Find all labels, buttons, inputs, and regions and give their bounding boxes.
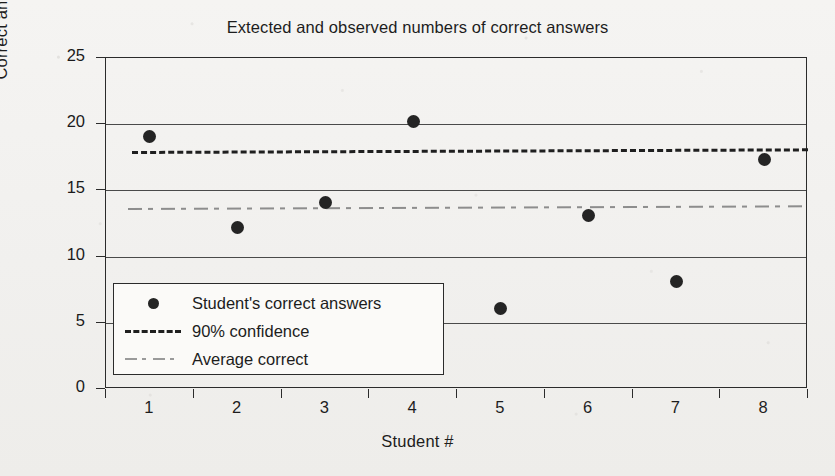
x-axis-tick-mark [368, 389, 369, 398]
gridline [106, 190, 806, 191]
data-point [407, 115, 420, 128]
confidence-interval-line [132, 148, 808, 154]
gridline [106, 124, 806, 125]
y-axis-tick-mark [96, 388, 105, 389]
data-point [494, 302, 507, 315]
dot-marker-key-icon [114, 298, 192, 309]
x-axis-tick-label: 2 [217, 398, 257, 417]
legend-label: 90% confidence [192, 322, 309, 341]
y-axis-title: Correct answers [0, 0, 11, 148]
x-axis-tick-mark [281, 389, 282, 398]
x-axis-tick-label: 5 [480, 398, 520, 417]
y-axis-tick-label: 5 [39, 311, 85, 330]
dash-dot-line-key-icon [114, 358, 192, 360]
x-axis-tick-mark [456, 389, 457, 398]
x-axis-tick-label: 6 [568, 398, 608, 417]
data-point [758, 153, 771, 166]
x-axis-tick-mark [632, 389, 633, 398]
x-axis-tick-label: 8 [743, 398, 783, 417]
data-point [143, 130, 156, 143]
x-axis-tick-label: 3 [304, 398, 344, 417]
y-axis-tick-label: 15 [39, 178, 85, 197]
y-axis-tick-mark [96, 123, 105, 124]
legend-item-students-correct-answers: Student's correct answers [114, 289, 443, 317]
x-axis-tick-label: 1 [129, 398, 169, 417]
y-axis-tick-mark [96, 322, 105, 323]
y-axis-tick-label: 25 [39, 46, 85, 65]
y-axis-tick-label: 20 [39, 112, 85, 131]
x-axis-tick-mark [193, 389, 194, 398]
x-axis-tick-mark [719, 389, 720, 398]
gridline [106, 257, 806, 258]
y-axis-tick-mark [96, 189, 105, 190]
chart-legend: Student's correct answers 90% confidence… [113, 283, 444, 375]
x-axis-tick-mark [807, 389, 808, 398]
legend-item-confidence: 90% confidence [114, 317, 443, 345]
data-point [582, 209, 595, 222]
y-axis-tick-mark [96, 57, 105, 58]
data-point [231, 221, 244, 234]
legend-item-average-correct: Average correct [114, 345, 443, 373]
data-point [670, 275, 683, 288]
x-axis-tick-mark [544, 389, 545, 398]
x-axis-tick-mark [105, 389, 106, 398]
chart-title: Extected and observed numbers of correct… [0, 18, 835, 37]
y-axis-tick-label: 10 [39, 245, 85, 264]
y-axis-tick-label: 0 [39, 377, 85, 396]
x-axis-title: Student # [0, 432, 835, 451]
y-axis-tick-mark [96, 256, 105, 257]
legend-label: Student's correct answers [192, 294, 381, 313]
chart-figure: Extected and observed numbers of correct… [0, 0, 835, 476]
dashed-line-key-icon [114, 330, 192, 333]
data-point [319, 196, 332, 209]
average-correct-line [128, 206, 808, 211]
x-axis-tick-label: 7 [655, 398, 695, 417]
legend-label: Average correct [192, 350, 308, 369]
x-axis-tick-label: 4 [392, 398, 432, 417]
